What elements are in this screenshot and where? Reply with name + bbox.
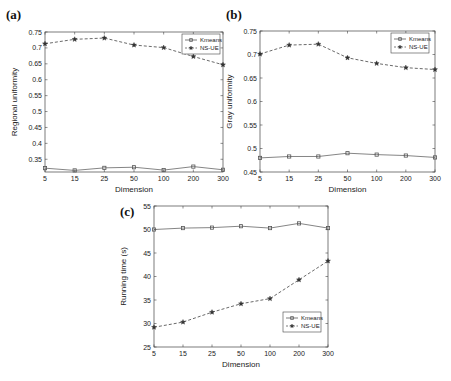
star-marker-icon xyxy=(43,41,48,46)
star-marker-icon xyxy=(316,42,321,47)
x-tick-label: 300 xyxy=(322,350,334,357)
star-marker-icon xyxy=(72,37,77,42)
x-tick-label: 5 xyxy=(152,350,156,357)
x-axis-label: Dimension xyxy=(222,360,260,369)
x-tick-label: 200 xyxy=(400,175,412,182)
y-axis-label: Regional uniformity xyxy=(10,68,19,136)
legend: KmeansNS-UE xyxy=(391,33,431,53)
y-tick-label: 0.55 xyxy=(28,92,42,99)
y-tick-label: 0.75 xyxy=(28,29,42,36)
star-marker-icon xyxy=(191,54,196,59)
x-axis-label: Dimension xyxy=(115,185,153,194)
legend-entry: NS-UE xyxy=(409,44,428,50)
x-tick-label: 200 xyxy=(187,175,199,182)
y-tick-label: 0.4 xyxy=(32,140,42,147)
star-marker-icon xyxy=(239,301,244,306)
x-tick-label: 25 xyxy=(208,350,216,357)
x-tick-label: 100 xyxy=(264,350,276,357)
panel-label: (b) xyxy=(226,7,242,22)
y-tick-label: 0.65 xyxy=(243,75,257,82)
legend-entry: Kmeans xyxy=(200,37,222,43)
star-marker-icon xyxy=(433,67,438,72)
star-marker-icon xyxy=(345,55,350,60)
star-marker-icon xyxy=(210,310,215,315)
y-tick-label: 0.75 xyxy=(243,28,257,35)
y-axis-label: Running time (s) xyxy=(119,247,128,306)
x-tick-label: 25 xyxy=(100,175,108,182)
y-tick-label: 45 xyxy=(143,250,151,257)
y-tick-label: 50 xyxy=(143,226,151,233)
star-marker-icon xyxy=(258,51,263,56)
legend-entry: Kmeans xyxy=(301,315,323,321)
chart-panel-a: (a)51525501002003000.350.40.450.50.550.6… xyxy=(6,7,229,194)
x-tick-label: 5 xyxy=(43,175,47,182)
star-marker-icon xyxy=(221,62,226,67)
y-tick-label: 0.55 xyxy=(243,122,257,129)
x-tick-label: 15 xyxy=(179,350,187,357)
y-tick-label: 0.5 xyxy=(32,108,42,115)
series-line-kmeans xyxy=(260,153,435,158)
legend: KmeansNS-UE xyxy=(182,34,222,54)
y-tick-label: 30 xyxy=(143,320,151,327)
y-tick-label: 35 xyxy=(143,297,151,304)
x-tick-label: 100 xyxy=(158,175,170,182)
y-tick-label: 0.7 xyxy=(247,51,257,58)
y-tick-label: 0.7 xyxy=(32,44,42,51)
x-tick-label: 200 xyxy=(293,350,305,357)
legend: KmeansNS-UE xyxy=(283,312,323,332)
star-marker-icon xyxy=(287,43,292,48)
x-tick-label: 5 xyxy=(258,175,262,182)
y-tick-label: 0.45 xyxy=(28,124,42,131)
y-axis-label: Gray uniformity xyxy=(225,74,234,128)
x-axis-label: Dimension xyxy=(329,185,367,194)
chart-panel-b: (b)51525501002003000.450.50.550.60.650.7… xyxy=(225,7,441,194)
star-marker-icon xyxy=(132,42,137,47)
star-marker-icon xyxy=(102,35,107,40)
y-tick-label: 55 xyxy=(143,203,151,210)
y-tick-label: 0.6 xyxy=(247,98,257,105)
x-tick-label: 100 xyxy=(371,175,383,182)
panel-label: (a) xyxy=(6,7,21,22)
y-tick-label: 40 xyxy=(143,273,151,280)
y-tick-label: 25 xyxy=(143,344,151,351)
y-tick-label: 0.5 xyxy=(247,145,257,152)
star-marker-icon xyxy=(181,319,186,324)
x-tick-label: 50 xyxy=(130,175,138,182)
x-tick-label: 300 xyxy=(429,175,441,182)
x-tick-label: 50 xyxy=(344,175,352,182)
y-tick-label: 0.65 xyxy=(28,60,42,67)
legend-entry: NS-UE xyxy=(301,323,320,329)
panel-label: (c) xyxy=(120,204,134,219)
x-tick-label: 25 xyxy=(314,175,322,182)
figure: (a)51525501002003000.350.40.450.50.550.6… xyxy=(0,0,451,381)
x-tick-label: 15 xyxy=(71,175,79,182)
legend-entry: Kmeans xyxy=(409,36,431,42)
x-tick-label: 300 xyxy=(217,175,229,182)
star-marker-icon xyxy=(161,45,166,50)
star-marker-icon xyxy=(403,65,408,70)
star-marker-icon xyxy=(268,296,273,301)
legend-entry: NS-UE xyxy=(200,45,219,51)
chart-panel-c: (c)515255010020030025303540455055Dimensi… xyxy=(119,203,334,370)
y-tick-label: 0.45 xyxy=(243,169,257,176)
star-marker-icon xyxy=(374,61,379,66)
x-tick-label: 15 xyxy=(285,175,293,182)
y-tick-label: 0.35 xyxy=(28,156,42,163)
y-tick-label: 0.6 xyxy=(32,76,42,83)
x-tick-label: 50 xyxy=(237,350,245,357)
star-marker-icon xyxy=(152,325,157,330)
